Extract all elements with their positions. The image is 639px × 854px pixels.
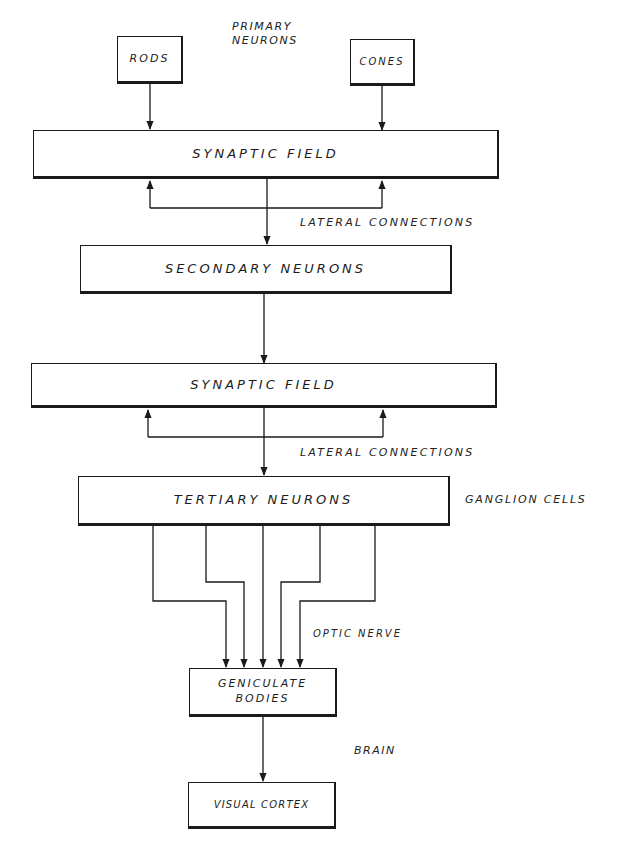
lateral-connections-1-label: LATERAL CONNECTIONS <box>300 216 474 230</box>
primary-neurons-label-line1: PRIMARY <box>232 20 298 34</box>
synaptic-field-1-label: SYNAPTIC FIELD <box>192 145 338 163</box>
optic-branch-1 <box>153 525 226 667</box>
rods-label: RODS <box>130 52 170 67</box>
optic-branch-2 <box>206 525 244 667</box>
rods-box: RODS <box>117 36 183 84</box>
optic-branch-5 <box>300 525 375 667</box>
optic-nerve-label: OPTIC NERVE <box>313 627 402 640</box>
brain-label: BRAIN <box>354 744 396 758</box>
secondary-neurons-box: SECONDARY NEURONS <box>80 245 452 294</box>
tertiary-neurons-label: TERTIARY NEURONS <box>174 491 354 509</box>
visual-cortex-label: VISUAL CORTEX <box>214 798 310 812</box>
cones-box: CONES <box>350 39 415 86</box>
geniculate-bodies-label-line1: GENICULATE <box>218 677 307 692</box>
synaptic-field-1-box: SYNAPTIC FIELD <box>33 130 499 179</box>
secondary-neurons-label: SECONDARY NEURONS <box>165 260 366 278</box>
visual-cortex-box: VISUAL CORTEX <box>188 782 336 829</box>
tertiary-neurons-box: TERTIARY NEURONS <box>78 476 450 526</box>
connector-lines <box>0 0 639 854</box>
primary-neurons-label-line2: NEURONS <box>232 34 298 48</box>
neural-pathway-diagram: PRIMARY NEURONS RODS CONES SYNAPTIC FIEL… <box>0 0 639 854</box>
primary-neurons-label: PRIMARY NEURONS <box>232 20 298 49</box>
synaptic-field-2-label: SYNAPTIC FIELD <box>190 376 336 394</box>
lateral-connections-2-label: LATERAL CONNECTIONS <box>300 446 474 460</box>
cones-label: CONES <box>360 55 405 69</box>
geniculate-bodies-label-line2: BODIES <box>236 692 290 707</box>
ganglion-cells-label: GANGLION CELLS <box>465 493 587 507</box>
synaptic-field-2-box: SYNAPTIC FIELD <box>31 363 497 408</box>
geniculate-bodies-box: GENICULATE BODIES <box>189 668 337 717</box>
